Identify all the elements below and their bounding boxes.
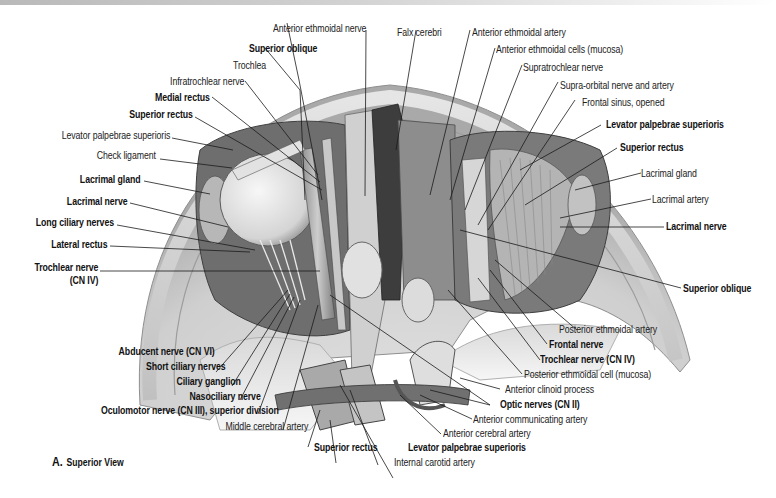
label-anterior-ethmoidal-artery: Anterior ethmoidal artery — [472, 27, 566, 39]
label-medial-rectus: Medial rectus — [155, 92, 210, 104]
caption-text: Superior View — [67, 457, 124, 468]
label-superior-rectus-bottom: Superior rectus — [314, 442, 377, 454]
label-oculomotor-nerve: Oculomotor nerve (CN III), superior divi… — [101, 405, 279, 417]
label-lacrimal-artery: Lacrimal artery — [652, 194, 709, 206]
label-anterior-clinoid-process: Anterior clinoid process — [505, 384, 594, 396]
label-levator-palpebrae-right: Levator palpebrae superioris — [606, 119, 724, 131]
label-middle-cerebral-artery: Middle cerebral artery — [225, 421, 308, 433]
label-anterior-communicating-artery: Anterior communicating artery — [473, 414, 587, 426]
label-supratrochlear-nerve: Supratrochlear nerve — [523, 62, 603, 74]
label-superior-oblique-top: Superior oblique — [249, 43, 317, 55]
label-trochlear-nerve-right: Trochlear nerve (CN IV) — [540, 354, 635, 366]
label-superior-oblique-right: Superior oblique — [683, 283, 751, 295]
label-lacrimal-nerve-right: Lacrimal nerve — [666, 221, 727, 233]
label-lateral-rectus: Lateral rectus — [51, 239, 107, 251]
label-long-ciliary-nerves: Long ciliary nerves — [36, 217, 114, 229]
label-posterior-ethmoidal-cell: Posterior ethmoidal cell (mucosa) — [524, 369, 651, 381]
label-abducent-nerve: Abducent nerve (CN VI) — [119, 346, 215, 358]
label-superior-rectus-left: Superior rectus — [130, 109, 193, 121]
label-frontal-sinus: Frontal sinus, opened — [582, 97, 664, 109]
label-trochlea: Trochlea — [233, 60, 266, 72]
label-nasociliary-nerve: Nasociliary nerve — [190, 391, 261, 403]
label-levator-palpebrae-bottom: Levator palpebrae superioris — [408, 442, 526, 454]
label-optic-nerves: Optic nerves (CN II) — [500, 399, 580, 411]
label-anterior-ethmoidal-cells: Anterior ethmoidal cells (mucosa) — [496, 44, 623, 56]
label-posterior-ethmoidal-artery: Posterior ethmoidal artery — [559, 324, 657, 336]
label-superior-rectus-right: Superior rectus — [620, 142, 683, 154]
label-trochlear-nerve-left: Trochlear nerve — [34, 262, 98, 274]
label-falx-cerebri: Falx cerebri — [397, 27, 442, 39]
label-anterior-cerebral-artery: Anterior cerebral artery — [443, 428, 531, 440]
label-short-ciliary-nerves: Short ciliary nerves — [146, 361, 226, 373]
label-levator-palpebrae-left: Levator palpebrae superioris — [61, 130, 170, 142]
caption-letter: A. — [52, 455, 63, 469]
label-frontal-nerve: Frontal nerve — [549, 339, 603, 351]
label-internal-carotid-artery: Internal carotid artery — [394, 457, 475, 469]
label-lacrimal-gland-right: Lacrimal gland — [641, 168, 697, 180]
label-ciliary-ganglion: Ciliary ganglion — [177, 376, 241, 388]
label-check-ligament: Check ligament — [97, 150, 156, 162]
figure-caption: A. Superior View — [52, 452, 124, 470]
label-infratrochlear-nerve: Infratrochlear nerve — [170, 76, 244, 88]
label-lacrimal-nerve-left: Lacrimal nerve — [67, 196, 128, 208]
label-supraorbital-nerve-artery: Supra-orbital nerve and artery — [560, 80, 674, 92]
label-lacrimal-gland-left: Lacrimal gland — [79, 174, 140, 186]
label-anterior-ethmoidal-nerve: Anterior ethmoidal nerve — [273, 23, 366, 35]
label-trochlear-cn-iv-left: (CN IV) — [69, 275, 98, 287]
orbit-illustration — [0, 0, 776, 498]
